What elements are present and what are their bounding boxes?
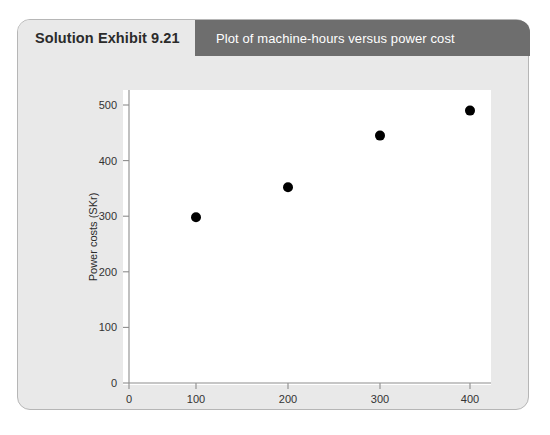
data-point (465, 106, 475, 116)
y-tick-label: 100 (99, 321, 117, 333)
x-tick-label: 100 (187, 393, 205, 405)
exhibit-card: Solution Exhibit 9.21 Plot of machine-ho… (17, 19, 529, 410)
y-tick-label: 300 (99, 210, 117, 222)
x-tick-label: 0 (126, 393, 132, 405)
x-tick-label: 400 (461, 393, 479, 405)
exhibit-banner: Plot of machine-hours versus power cost (195, 20, 530, 56)
data-point (191, 212, 201, 222)
exhibit-header: Solution Exhibit 9.21 Plot of machine-ho… (18, 20, 530, 56)
chart-region: 0 100 200 300 400 500 0 (18, 56, 530, 410)
exhibit-tab: Solution Exhibit 9.21 (18, 20, 198, 56)
x-tick-label: 200 (279, 393, 297, 405)
data-point (283, 182, 293, 192)
scatter-chart: 0 100 200 300 400 500 0 (18, 56, 530, 410)
y-axis-title: Power costs (SKr) (87, 193, 99, 282)
exhibit-banner-label: Plot of machine-hours versus power cost (216, 31, 455, 46)
x-tick-label: 300 (371, 393, 389, 405)
exhibit-screenshot: Solution Exhibit 9.21 Plot of machine-ho… (0, 0, 550, 435)
y-tick-label: 200 (99, 266, 117, 278)
plot-panel (123, 90, 491, 385)
y-tick-label: 400 (99, 155, 117, 167)
x-axis-ticks: 0 100 200 300 400 (126, 383, 479, 405)
y-tick-label: 0 (111, 377, 117, 389)
data-point (375, 131, 385, 141)
exhibit-tab-label: Solution Exhibit 9.21 (35, 30, 180, 46)
y-tick-label: 500 (99, 99, 117, 111)
